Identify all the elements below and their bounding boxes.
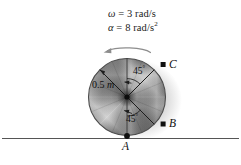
radius-dimension-label: 0.5 m: [92, 79, 114, 90]
point-label-c: C: [169, 58, 177, 70]
angle-label-bottom: 45°: [126, 112, 138, 124]
angular-acceleration-label: α = 8 rad/s2: [108, 20, 158, 33]
radius-unit: m: [107, 79, 114, 90]
alpha-value: 8: [125, 22, 130, 33]
point-marker-b: [161, 122, 166, 127]
omega-symbol: ω: [108, 8, 116, 19]
angle-top-degree-symbol: °: [143, 64, 146, 71]
alpha-unit-exponent: 2: [154, 20, 158, 28]
alpha-unit: rad/s: [133, 22, 154, 33]
alpha-equals: =: [116, 22, 122, 33]
rotation-arrow-head: [104, 48, 112, 53]
point-marker-center: [124, 94, 129, 99]
omega-equals: =: [118, 8, 124, 19]
angle-bottom-degree-symbol: °: [136, 112, 139, 119]
omega-unit: rad/s: [135, 8, 156, 19]
rotation-arrow-arc: [108, 48, 151, 53]
point-label-a: A: [122, 140, 129, 152]
angular-velocity-label: ω = 3 rad/s: [108, 8, 156, 19]
omega-value: 3: [127, 8, 132, 19]
point-marker-c: [161, 62, 166, 67]
angle-top-value: 45: [133, 66, 143, 76]
angle-label-top: 45°: [133, 64, 145, 76]
point-marker-a: [124, 133, 130, 139]
point-label-b: B: [169, 117, 176, 129]
angle-bottom-value: 45: [126, 114, 136, 124]
radius-value: 0.5: [92, 79, 105, 90]
rotating-disk-figure: ω = 3 rad/s α = 8 rad/s2 0.5 m 45° 45° C…: [0, 0, 241, 165]
alpha-symbol: α: [108, 22, 114, 33]
